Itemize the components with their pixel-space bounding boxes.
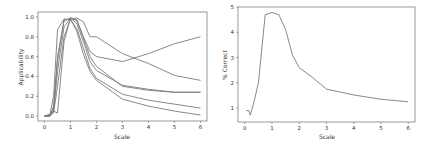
- x-axis-label: Scale: [319, 133, 335, 140]
- percent-correct-plot: 012345612345 Scale % Correct: [215, 0, 429, 145]
- y-tick-label: 3: [231, 55, 235, 61]
- applicability-chart: 01234560.00.20.40.60.81.0 Scale Applicab…: [0, 0, 215, 145]
- y-tick-label: 0.8: [25, 34, 34, 40]
- y-axis-label: % Correct: [221, 50, 228, 80]
- x-tick-label: 0: [43, 124, 47, 130]
- x-tick-label: 1: [69, 124, 73, 130]
- percent-correct-chart: 012345612345 Scale % Correct: [215, 0, 429, 145]
- data-lines: [45, 18, 201, 116]
- x-tick-label: 4: [352, 125, 356, 131]
- x-tick-label: 3: [121, 124, 125, 130]
- x-axis-label: Scale: [114, 133, 130, 140]
- x-tick-label: 5: [173, 124, 177, 130]
- x-tick-label: 6: [406, 125, 410, 131]
- axis-ticks: 012345612345: [231, 4, 411, 131]
- x-tick-label: 2: [95, 124, 99, 130]
- series-line: [45, 18, 201, 116]
- x-tick-label: 5: [379, 125, 383, 131]
- y-tick-label: 5: [231, 4, 235, 10]
- y-tick-label: 0.2: [25, 93, 34, 99]
- y-tick-label: 0.6: [25, 54, 34, 60]
- y-tick-label: 0.0: [25, 113, 34, 119]
- data-lines: [246, 13, 408, 116]
- y-tick-label: 1: [231, 105, 235, 111]
- y-tick-label: 0.4: [25, 73, 34, 79]
- series-line: [45, 18, 201, 116]
- series-line: [45, 19, 201, 116]
- x-tick-label: 6: [199, 124, 203, 130]
- x-tick-label: 1: [270, 125, 274, 131]
- series-line: [45, 18, 201, 116]
- x-tick-label: 2: [298, 125, 302, 131]
- y-axis-label: Applicability: [17, 48, 25, 85]
- y-tick-label: 4: [231, 29, 235, 35]
- series-line: [45, 19, 201, 116]
- applicability-plot: 01234560.00.20.40.60.81.0 Scale Applicab…: [0, 0, 215, 145]
- series-line: [45, 18, 201, 116]
- x-tick-label: 0: [243, 125, 247, 131]
- x-tick-label: 3: [325, 125, 329, 131]
- y-tick-label: 2: [231, 80, 235, 86]
- y-tick-label: 1.0: [25, 14, 34, 20]
- x-tick-label: 4: [147, 124, 151, 130]
- series-line: [246, 13, 408, 116]
